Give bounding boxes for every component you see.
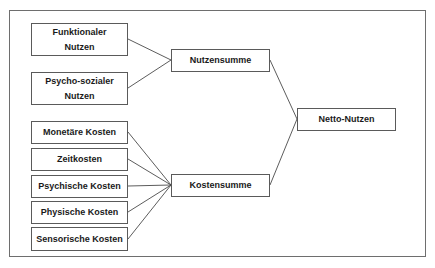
cost-sum-box: Kostensumme: [171, 174, 270, 197]
cost-box-monetary: Monetäre Kosten: [31, 121, 128, 144]
benefit-box-psychosocial: Psycho-sozialer Nutzen: [31, 72, 128, 105]
cost-box-sensory: Sensorische Kosten: [31, 227, 128, 251]
cost-box-psychological: Psychische Kosten: [31, 175, 128, 198]
net-benefit-box: Netto-Nutzen: [297, 108, 396, 131]
benefit-box-functional: Funktionaler Nutzen: [31, 23, 128, 56]
benefit-sum-box: Nutzensumme: [171, 49, 270, 72]
cost-box-time: Zeitkosten: [31, 148, 128, 171]
cost-box-physical: Physische Kosten: [31, 201, 128, 224]
